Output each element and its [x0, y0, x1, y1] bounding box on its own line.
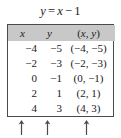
table-body: −4 −5 (−4, −5) −2 −3 (−2, −3) 0 −1 (0, −… [8, 41, 115, 116]
up-arrow-icon-ordered-pair-column [82, 119, 91, 136]
column-header-ordered-pair: (x, y) [62, 25, 115, 41]
cell-y: −5 [37, 41, 62, 56]
equation-title: y=x−1 [0, 4, 121, 19]
column-header-x: x [8, 25, 37, 41]
cell-y: −3 [37, 56, 62, 71]
header-row: x y (x, y) [8, 25, 115, 41]
column-header-y: y [37, 25, 62, 41]
equation-constant: 1 [74, 4, 80, 18]
table-header: x y (x, y) [8, 25, 115, 41]
cell-y: 1 [37, 86, 62, 101]
equation-minus-sign: − [63, 4, 74, 18]
cell-x: 4 [8, 101, 37, 116]
value-table: x y (x, y) −4 −5 (−4, −5) −2 −3 (−2, −3)… [7, 24, 114, 117]
value-table-grid: x y (x, y) −4 −5 (−4, −5) −2 −3 (−2, −3)… [8, 25, 115, 116]
value-table-figure: y=x−1 x y (x, y) −4 −5 (−4, −5) [0, 0, 121, 138]
pair-close-paren: ) [96, 27, 100, 39]
table-row: −2 −3 (−2, −3) [8, 56, 115, 71]
cell-ordered-pair: (−2, −3) [62, 56, 115, 71]
table-row: 0 −1 (0, −1) [8, 71, 115, 86]
table-row: 4 3 (4, 3) [8, 101, 115, 116]
cell-x: 2 [8, 86, 37, 101]
cell-x: −2 [8, 56, 37, 71]
cell-ordered-pair: (4, 3) [62, 101, 115, 116]
table-row: −4 −5 (−4, −5) [8, 41, 115, 56]
up-arrow-icon-y-column [43, 119, 52, 136]
cell-ordered-pair: (2, 1) [62, 86, 115, 101]
cell-ordered-pair: (0, −1) [62, 71, 115, 86]
column-pointer-arrows [0, 119, 121, 138]
cell-ordered-pair: (−4, −5) [62, 41, 115, 56]
equation-equals-sign: = [46, 4, 57, 18]
cell-y: −1 [37, 71, 62, 86]
table-row: 2 1 (2, 1) [8, 86, 115, 101]
cell-x: 0 [8, 71, 37, 86]
cell-y: 3 [37, 101, 62, 116]
cell-x: −4 [8, 41, 37, 56]
up-arrow-icon-x-column [17, 119, 26, 136]
